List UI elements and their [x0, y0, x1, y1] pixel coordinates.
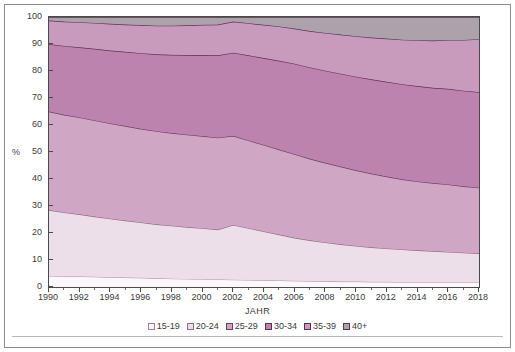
legend-label: 25-29 — [235, 321, 258, 331]
legend-separator — [12, 336, 503, 337]
legend-item-30-34[interactable]: 30-34 — [265, 321, 297, 331]
legend-label: 30-34 — [274, 321, 297, 331]
legend-label: 40+ — [352, 321, 367, 331]
chart-legend: 15-1920-2425-2930-3435-3940+ — [0, 321, 515, 331]
legend-label: 15-19 — [157, 321, 180, 331]
legend-swatch-icon — [343, 323, 350, 330]
chart-root: 0102030405060708090100199019921994199619… — [0, 0, 515, 352]
legend-swatch-icon — [226, 323, 233, 330]
y-axis-unit-label: % — [12, 147, 20, 157]
legend-item-20-24[interactable]: 20-24 — [187, 321, 219, 331]
x-axis-title: JAHR — [0, 306, 515, 316]
legend-swatch-icon — [148, 323, 155, 330]
legend-swatch-icon — [265, 323, 272, 330]
legend-item-35-39[interactable]: 35-39 — [304, 321, 336, 331]
stacked-area-svg — [49, 17, 479, 287]
legend-item-25-29[interactable]: 25-29 — [226, 321, 258, 331]
legend-swatch-icon — [187, 323, 194, 330]
legend-item-40+[interactable]: 40+ — [343, 321, 367, 331]
legend-swatch-icon — [304, 323, 311, 330]
legend-label: 35-39 — [313, 321, 336, 331]
legend-label: 20-24 — [196, 321, 219, 331]
legend-item-15-19[interactable]: 15-19 — [148, 321, 180, 331]
plot-area — [48, 16, 480, 288]
